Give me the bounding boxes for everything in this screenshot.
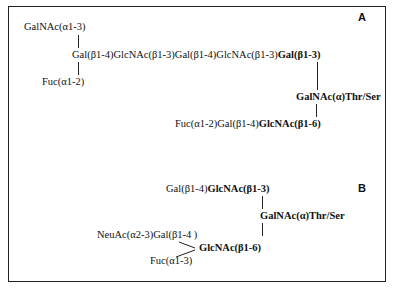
b-branch-connector bbox=[0, 0, 394, 295]
b-glcnac-b1-6: GlcNAc(β1-6) bbox=[199, 242, 261, 254]
b-fuc-a1-3: Fuc(α1-3) bbox=[150, 255, 192, 267]
